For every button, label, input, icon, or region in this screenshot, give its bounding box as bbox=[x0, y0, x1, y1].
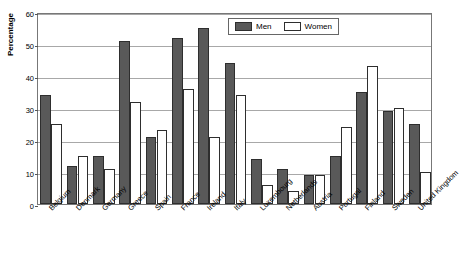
legend-item-women: Women bbox=[284, 22, 332, 31]
y-tick-label: 20 bbox=[26, 138, 34, 147]
y-tick-label: 0 bbox=[30, 202, 34, 211]
bar-group bbox=[222, 14, 248, 204]
bar-men-denmark bbox=[67, 166, 78, 204]
bar-group bbox=[196, 14, 222, 204]
bar-women-sweden bbox=[394, 108, 405, 204]
bar-men-belgium bbox=[40, 95, 51, 204]
y-tick-label: 10 bbox=[26, 170, 34, 179]
bars-layer bbox=[38, 14, 431, 204]
bar-men-luxembourg bbox=[251, 159, 262, 204]
bar-group bbox=[354, 14, 380, 204]
y-tick-label: 50 bbox=[26, 42, 34, 51]
plot-area: 0102030405060 bbox=[37, 13, 432, 205]
bar-group bbox=[38, 14, 64, 204]
bar-women-finland bbox=[367, 66, 378, 204]
legend-item-men: Men bbox=[235, 22, 272, 31]
legend-label-men: Men bbox=[256, 22, 272, 31]
bar-group bbox=[170, 14, 196, 204]
bar-group bbox=[301, 14, 327, 204]
bar-men-ireland bbox=[198, 28, 209, 204]
legend-swatch-men-icon bbox=[235, 22, 252, 31]
bar-group bbox=[380, 14, 406, 204]
y-tick-label: 40 bbox=[26, 74, 34, 83]
legend-label-women: Women bbox=[305, 22, 332, 31]
y-tick-label: 30 bbox=[26, 106, 34, 115]
bar-group bbox=[91, 14, 117, 204]
y-axis-title: Percentage bbox=[6, 0, 15, 70]
bar-group bbox=[143, 14, 169, 204]
bar-men-sweden bbox=[383, 111, 394, 204]
bar-women-italy bbox=[236, 95, 247, 204]
bar-men-italy bbox=[225, 63, 236, 204]
bar-group bbox=[407, 14, 433, 204]
bar-group bbox=[328, 14, 354, 204]
x-axis-labels: BelgiumDenmarkGermanyGreeceSpainFranceIr… bbox=[37, 206, 432, 276]
bar-men-greece bbox=[119, 41, 130, 204]
legend-swatch-women-icon bbox=[284, 22, 301, 31]
bar-group bbox=[275, 14, 301, 204]
bar-group bbox=[249, 14, 275, 204]
bar-group bbox=[64, 14, 90, 204]
bar-women-greece bbox=[130, 102, 141, 204]
bar-women-france bbox=[183, 89, 194, 204]
chart-legend: Men Women bbox=[228, 18, 339, 35]
y-tick-label: 60 bbox=[26, 10, 34, 19]
bar-men-france bbox=[172, 38, 183, 204]
bar-group bbox=[117, 14, 143, 204]
